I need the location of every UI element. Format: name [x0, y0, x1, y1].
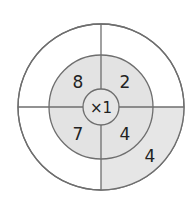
outer-answer-bottom-right: 4	[145, 146, 156, 166]
inner-number-top-right: 2	[120, 72, 131, 92]
inner-number-top-left: 8	[73, 72, 84, 92]
inner-number-bottom-right: 4	[120, 124, 131, 144]
inner-number-bottom-left: 7	[73, 124, 84, 144]
multiplication-wheel: ×1 8 2 7 4 4	[0, 0, 193, 199]
center-operator-label: ×1	[90, 99, 112, 117]
